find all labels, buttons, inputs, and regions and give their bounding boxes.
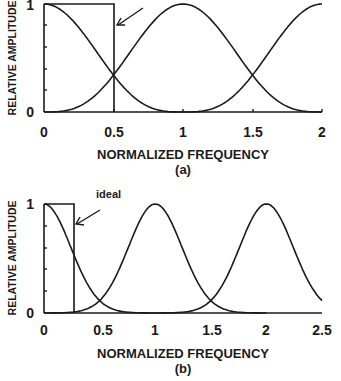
chart-a-ylabel: RELATIVE AMPLITUDE — [6, 1, 18, 116]
chart-b-xtick: 1.5 — [202, 322, 222, 338]
chart-a-curve-2 — [183, 4, 322, 112]
chart-a-xtick: 0.5 — [104, 124, 124, 140]
chart-a-y-ticks — [44, 25, 322, 112]
chart-a-xtick: 1.5 — [243, 124, 263, 140]
chart-a-arrow-icon — [117, 8, 143, 25]
filter-response-figure: RELATIVE AMPLITUDE 1 0 0 0.5 1 1.5 2 NOR… — [0, 0, 341, 381]
chart-b-xtick: 2 — [262, 322, 270, 338]
chart-b-curve-0 — [44, 204, 155, 313]
chart-a-curve-1 — [44, 4, 322, 112]
chart-b-xtick: 1 — [151, 322, 159, 338]
chart-b-ytick-0: 0 — [26, 305, 34, 321]
chart-a: RELATIVE AMPLITUDE 1 0 0 0.5 1 1.5 2 NOR… — [6, 0, 326, 177]
chart-b-caption: (b) — [175, 361, 192, 376]
chart-a-ideal-box — [44, 4, 114, 112]
chart-a-xtick: 0 — [40, 124, 48, 140]
chart-b-arrow-icon — [76, 210, 100, 225]
chart-b-ylabel: RELATIVE AMPLITUDE — [6, 201, 18, 316]
chart-b-xtick: 2.5 — [312, 322, 332, 338]
chart-b-xtick: 0.5 — [93, 322, 113, 338]
chart-b-xlabel: NORMALIZED FREQUENCY — [97, 346, 269, 361]
chart-a-caption: (a) — [175, 162, 191, 177]
chart-b-ytick-1: 1 — [26, 196, 34, 212]
chart-a-xtick: 2 — [318, 124, 326, 140]
chart-a-xlabel: NORMALIZED FREQUENCY — [97, 147, 269, 162]
chart-b-annotation-ideal: ideal — [96, 188, 121, 200]
chart-a-ytick-0: 0 — [26, 104, 34, 120]
chart-b-xtick: 0 — [40, 322, 48, 338]
chart-b-curve-2 — [155, 204, 322, 313]
chart-a-ytick-1: 1 — [26, 0, 34, 13]
chart-b: RELATIVE AMPLITUDE 1 0 ideal 0 0.5 1 1.5… — [6, 188, 332, 376]
chart-a-xtick: 1 — [179, 124, 187, 140]
